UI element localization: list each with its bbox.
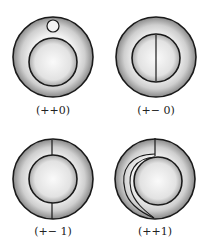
inner-disk (134, 157, 182, 205)
panel-plus-minus-0: (+− 0) (116, 17, 196, 117)
small-loop (47, 20, 59, 32)
panel-plus-plus-0: (++0) (13, 17, 93, 117)
panel-label: (++0) (36, 104, 70, 117)
figure-canvas: (++0) (+− 0) (+− 1) (++1) (0, 0, 206, 246)
panel-plus-plus-1: (++1) (115, 138, 195, 238)
inner-disk (29, 38, 77, 86)
panel-plus-minus-1: (+− 1) (13, 139, 93, 238)
inner-disk (29, 155, 77, 203)
panel-label: (+− 0) (137, 104, 175, 117)
panel-label: (+− 1) (34, 225, 72, 238)
panel-label: (++1) (138, 225, 172, 238)
